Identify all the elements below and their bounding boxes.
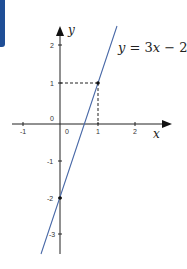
y-axis-arrow-icon [56, 26, 64, 36]
y-axis-label: y [67, 23, 75, 37]
x-tick-label: 2 [133, 128, 137, 135]
line-series [41, 26, 117, 254]
y-tick-label: 2 [50, 42, 54, 49]
x-tick-label: 1 [96, 128, 100, 135]
point-0-neg2 [58, 196, 62, 200]
y-tick-label: -3 [49, 231, 55, 238]
eq-end: − 2 [160, 40, 187, 55]
x-tick-label: -1 [20, 128, 26, 135]
x-tick-label: 0 [65, 128, 69, 135]
y-tick-label: -2 [47, 195, 53, 202]
x-axis-label: x [153, 127, 160, 141]
point-1-1 [96, 81, 100, 85]
graph-plot: -1 0 1 2 2 1 0 -1 -2 -3 x y y = 3x − 2 [0, 0, 187, 269]
eq-mid: = 3 [125, 40, 152, 55]
y-tick-label: 0 [50, 115, 54, 122]
y-tick-label: 1 [50, 80, 54, 87]
x-axis-arrow-icon [162, 120, 172, 128]
equation-label: y = 3x − 2 [117, 40, 187, 55]
y-tick-label: -1 [47, 158, 53, 165]
